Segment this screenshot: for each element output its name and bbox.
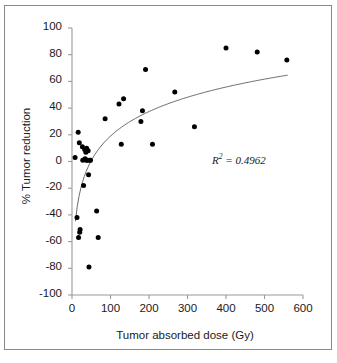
data-point <box>86 264 91 269</box>
data-point <box>94 208 99 213</box>
x-axis-title: Tumor absorbed dose (Gy) <box>60 329 310 341</box>
x-tick-label: 300 <box>168 302 208 314</box>
y-axis-ticks <box>68 28 72 295</box>
data-point <box>143 67 148 72</box>
data-point <box>150 142 155 147</box>
y-tick-label: 100 <box>22 20 62 32</box>
data-point <box>86 172 91 177</box>
data-point <box>77 140 82 145</box>
data-point <box>284 58 289 63</box>
r-squared-value: = 0.4962 <box>222 154 265 166</box>
y-tick-label: 80 <box>22 47 62 59</box>
data-point <box>119 142 124 147</box>
r-squared-symbol: R <box>212 154 219 166</box>
data-point <box>138 119 143 124</box>
data-point <box>96 235 101 240</box>
x-tick-label: 0 <box>52 302 92 314</box>
data-point <box>76 235 81 240</box>
data-point <box>103 116 108 121</box>
y-tick-label: 60 <box>22 73 62 85</box>
data-point <box>76 130 81 135</box>
data-point <box>88 158 93 163</box>
data-point <box>73 155 78 160</box>
x-tick-label: 100 <box>91 302 131 314</box>
data-point <box>172 90 177 95</box>
y-tick-label: -100 <box>22 287 62 299</box>
data-point <box>140 108 145 113</box>
scatter-plot-figure: -100-80-60-40-20020406080100 01002003004… <box>0 0 337 363</box>
axes-group <box>68 28 303 299</box>
data-point <box>192 124 197 129</box>
r-squared-annotation: R2 = 0.4962 <box>212 152 266 166</box>
y-axis-title: % Tumor reduction <box>20 86 32 226</box>
data-point <box>75 215 80 220</box>
x-axis-ticks <box>72 295 303 299</box>
data-point <box>255 50 260 55</box>
data-point <box>78 227 83 232</box>
data-point <box>81 183 86 188</box>
x-tick-label: 200 <box>129 302 169 314</box>
x-tick-label: 600 <box>283 302 323 314</box>
y-tick-label: -60 <box>22 234 62 246</box>
x-tick-label: 400 <box>206 302 246 314</box>
data-point <box>121 96 126 101</box>
data-point <box>224 46 229 51</box>
y-tick-label: -80 <box>22 260 62 272</box>
x-tick-label: 500 <box>245 302 285 314</box>
trendline <box>75 75 287 221</box>
data-point <box>116 102 121 107</box>
data-point <box>86 148 91 153</box>
